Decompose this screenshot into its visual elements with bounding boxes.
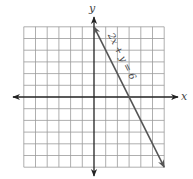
y-axis-label: y — [88, 2, 96, 15]
coordinate-graph: x y 2x + y = 6 — [0, 0, 193, 179]
x-axis-label: x — [181, 90, 188, 103]
